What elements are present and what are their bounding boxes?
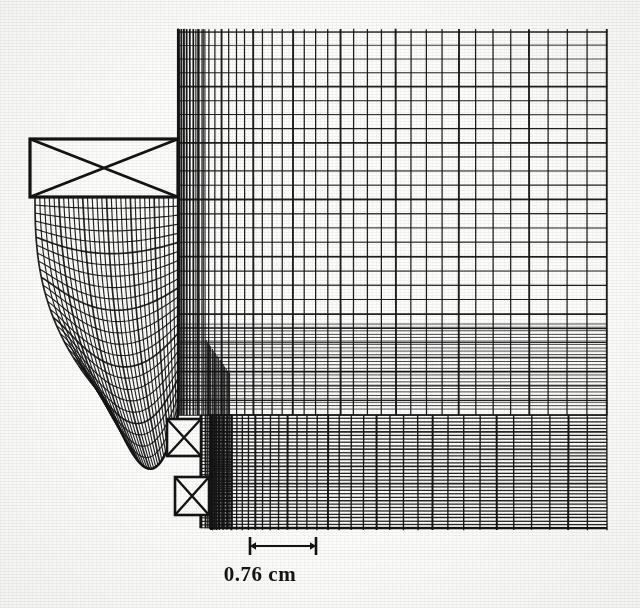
figure-root: 0.76 cm xyxy=(0,0,640,608)
finite-element-mesh-canvas xyxy=(0,0,640,608)
dimension-label-text: 0.76 cm xyxy=(224,562,296,587)
dimension-label: 0.76 cm xyxy=(0,562,640,587)
